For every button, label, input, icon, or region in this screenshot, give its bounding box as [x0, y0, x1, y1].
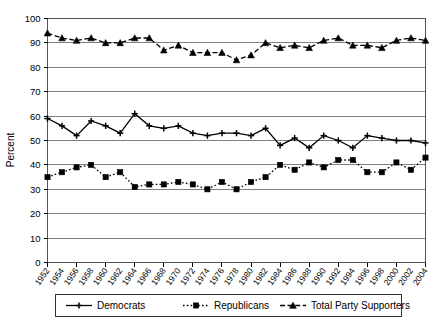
data-point: [132, 184, 137, 189]
y-tick-label: 10: [30, 233, 41, 244]
data-point: [278, 162, 283, 167]
data-point: [336, 157, 341, 162]
y-tick-label: 100: [25, 13, 41, 24]
data-point: [147, 182, 152, 187]
data-point: [394, 160, 399, 165]
data-point: [176, 179, 181, 184]
data-point: [263, 175, 268, 180]
y-tick-label: 70: [30, 86, 41, 97]
data-point: [350, 157, 355, 162]
data-point: [89, 162, 94, 167]
data-point: [161, 182, 166, 187]
legend-label: Republicans: [214, 300, 269, 311]
legend-marker-sample: [193, 303, 198, 308]
data-point: [45, 175, 50, 180]
y-tick-label: 80: [30, 62, 41, 73]
data-point: [103, 175, 108, 180]
data-point: [59, 170, 64, 175]
data-point: [292, 167, 297, 172]
data-point: [248, 179, 253, 184]
data-point: [321, 165, 326, 170]
y-tick-label: 90: [30, 37, 41, 48]
y-tick-label: 0: [35, 257, 40, 268]
y-tick-label: 60: [30, 111, 41, 122]
y-tick-label: 20: [30, 208, 41, 219]
y-tick-label: 50: [30, 135, 41, 146]
data-point: [423, 155, 428, 160]
data-point: [365, 170, 370, 175]
chart-container: 0102030405060708090100 19521954195619581…: [0, 0, 438, 321]
data-point: [74, 165, 79, 170]
chart-legend: DemocratsRepublicansTotal Party Supporte…: [56, 295, 410, 317]
data-point: [205, 187, 210, 192]
data-point: [307, 160, 312, 165]
y-axis-label: Percent: [5, 133, 16, 168]
legend-label: Total Party Supporters: [311, 300, 410, 311]
data-point: [219, 179, 224, 184]
y-tick-label: 40: [30, 159, 41, 170]
data-point: [118, 170, 123, 175]
data-point: [234, 187, 239, 192]
legend-label: Democrats: [97, 300, 145, 311]
data-point: [379, 170, 384, 175]
data-point: [190, 182, 195, 187]
line-chart: 0102030405060708090100 19521954195619581…: [0, 0, 438, 321]
data-point: [408, 167, 413, 172]
y-tick-label: 30: [30, 184, 41, 195]
